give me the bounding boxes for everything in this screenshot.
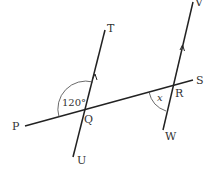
geometry-diagram: 120° x P Q R S T U V W (0, 0, 215, 174)
line-tu (73, 30, 105, 157)
point-label-w: W (165, 130, 177, 143)
point-label-v: V (194, 0, 204, 9)
point-label-u: U (77, 154, 86, 167)
line-ps (25, 80, 193, 126)
point-label-t: T (107, 22, 115, 35)
diagram-svg: 120° x P Q R S T U V W (0, 0, 215, 174)
angle-label-x: x (157, 92, 163, 103)
point-label-q: Q (84, 113, 93, 126)
point-label-s: S (196, 74, 204, 87)
point-label-r: R (175, 87, 184, 100)
line-vw (163, 2, 193, 130)
angle-label-120: 120° (62, 97, 86, 108)
point-label-p: P (12, 120, 20, 133)
